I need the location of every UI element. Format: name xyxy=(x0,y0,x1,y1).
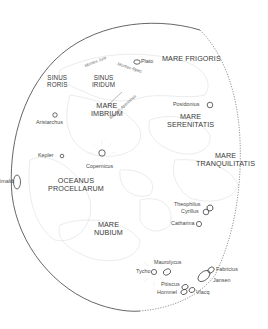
mare-serenitatis-line2: SERENITATIS xyxy=(167,121,214,129)
label-mare-frigoris: MARE FRIGORIS xyxy=(162,55,221,63)
label-sinus-iridum: SINUS IRIDUM xyxy=(92,75,115,88)
label-aristarchus: Aristarchus xyxy=(36,120,63,126)
label-cyrillus: Cyrillus xyxy=(181,209,199,215)
label-catharina: Catharina xyxy=(171,221,194,227)
oceanus-procellarum-line2: PROCELLARUM xyxy=(48,185,104,193)
jansen-crater-icon xyxy=(196,268,212,283)
label-mare-nubium: MARE NUBIUM xyxy=(94,221,123,236)
posidonius-crater-icon xyxy=(207,102,213,108)
mare-frigoris-text: MARE FRIGORIS xyxy=(162,54,221,63)
label-plato: Plato xyxy=(141,59,153,65)
tycho-crater-icon xyxy=(151,269,156,274)
label-hommel: Hommel xyxy=(157,290,177,296)
label-pitiscus: Pitiscus xyxy=(161,282,180,288)
label-fabricius: Fabricius xyxy=(216,267,238,273)
label-posidonius: Posidonius xyxy=(173,102,199,108)
vlacq-crater-icon xyxy=(188,287,195,294)
catharina-crater-icon xyxy=(196,221,201,226)
copernicus-rays-icon xyxy=(88,140,116,165)
label-mare-serenitatis: MARE SERENITATIS xyxy=(167,113,214,128)
sinus-roris-line2: RORIS xyxy=(47,82,67,89)
grimaldi-crater-icon xyxy=(14,175,21,189)
plato-crater-icon xyxy=(134,60,140,64)
copernicus-crater-icon xyxy=(99,150,105,156)
theophilus-crater-icon xyxy=(206,204,214,212)
label-copernicus: Copernicus xyxy=(86,164,113,170)
label-grimaldi: imaldi xyxy=(0,179,14,185)
fabricius-crater-icon xyxy=(207,266,216,274)
sinus-iridum-line2: IRIDUM xyxy=(92,82,115,89)
label-theophilus: Theophilus xyxy=(174,202,200,208)
label-sinus-roris: SINUS RORIS xyxy=(47,75,67,88)
label-tycho: Tycho xyxy=(136,269,150,275)
hommel-crater-icon xyxy=(180,289,188,296)
label-kepler: Kepler xyxy=(38,153,54,159)
label-maurolycus: Maurolycus xyxy=(154,260,182,266)
label-vlacq: Vlacq xyxy=(196,290,210,296)
mare-nubium-line2: NUBIUM xyxy=(94,229,123,237)
mare-tranquilitatis-line2: TRANQUILITATIS xyxy=(196,160,255,168)
cyrillus-crater-icon xyxy=(203,209,209,215)
label-oceanus-procellarum: OCEANUS PROCELLARUM xyxy=(48,177,104,192)
craters xyxy=(14,60,216,296)
kepler-crater-icon xyxy=(60,154,64,158)
label-jansen: Jansen xyxy=(213,278,230,284)
label-mare-tranquilitatis: MARE TRANQUILITATIS xyxy=(196,152,255,167)
aristarchus-crater-icon xyxy=(53,113,57,117)
